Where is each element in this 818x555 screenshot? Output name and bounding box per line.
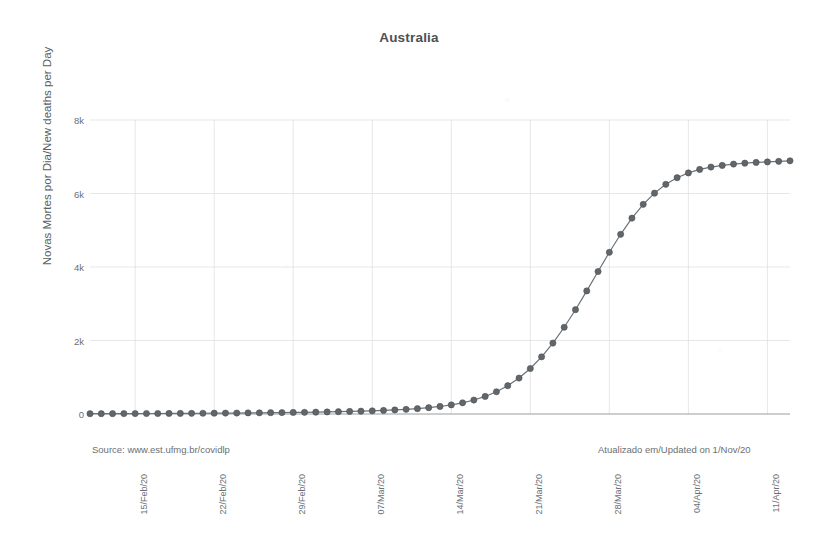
data-point-marker <box>335 409 341 415</box>
data-point-marker <box>719 162 725 168</box>
data-point-marker <box>787 158 793 164</box>
data-point-marker <box>482 393 488 399</box>
data-point-marker <box>685 170 691 176</box>
data-point-marker <box>166 410 172 416</box>
data-point-marker <box>87 411 93 417</box>
data-line-series <box>90 161 790 414</box>
chart-canvas <box>90 120 790 414</box>
data-point-marker <box>674 175 680 181</box>
data-point-marker <box>279 410 285 416</box>
x-axis-ticks: 15/Feb/2022/Feb/2029/Feb/2007/Mar/2014/M… <box>90 470 790 550</box>
data-point-marker <box>629 215 635 221</box>
data-point-marker <box>697 166 703 172</box>
data-point-marker <box>618 231 624 237</box>
x-tick-label: 29/Feb/20 <box>297 474 307 515</box>
y-tick-label: 6k <box>74 188 84 199</box>
data-point-marker <box>493 389 499 395</box>
y-tick-label: 2k <box>74 335 84 346</box>
y-tick-label: 8k <box>74 115 84 126</box>
data-point-marker <box>403 406 409 412</box>
data-point-marker <box>347 408 353 414</box>
x-tick-label: 11/Apr/20 <box>771 474 781 512</box>
data-point-marker <box>753 159 759 165</box>
data-point-marker <box>189 410 195 416</box>
data-point-marker <box>561 324 567 330</box>
data-point-marker <box>392 407 398 413</box>
x-tick-label: 07/Mar/20 <box>376 474 386 515</box>
data-point-marker <box>516 375 522 381</box>
data-point-marker <box>155 410 161 416</box>
data-point-marker <box>222 410 228 416</box>
data-point-marker <box>143 410 149 416</box>
x-tick-label: 22/Feb/20 <box>218 474 228 515</box>
data-point-marker <box>730 161 736 167</box>
chart-title: Australia <box>0 30 818 45</box>
data-point-marker <box>663 181 669 187</box>
data-point-marker <box>550 340 556 346</box>
data-point-marker <box>505 383 511 389</box>
data-point-marker <box>572 307 578 313</box>
data-point-marker <box>245 410 251 416</box>
data-point-marker <box>651 190 657 196</box>
x-tick-label: 21/Mar/20 <box>534 474 544 515</box>
data-point-marker <box>358 408 364 414</box>
data-point-marker <box>437 403 443 409</box>
y-tick-label: 4k <box>74 262 84 273</box>
data-point-marker <box>742 160 748 166</box>
data-point-marker <box>211 410 217 416</box>
updated-annotation: Atualizado em/Updated on 1/Nov/20 <box>598 444 751 455</box>
data-point-marker <box>98 411 104 417</box>
data-point-marker <box>584 288 590 294</box>
source-annotation: Source: www.est.ufmg.br/covidlp <box>92 444 230 455</box>
x-tick-label: 14/Mar/20 <box>455 474 465 515</box>
data-point-marker <box>640 201 646 207</box>
data-point-marker <box>109 411 115 417</box>
data-point-marker <box>132 410 138 416</box>
data-point-marker <box>324 409 330 415</box>
data-point-marker <box>426 405 432 411</box>
data-point-marker <box>301 409 307 415</box>
plot-area: 8k6k4k2k0 <box>90 120 790 414</box>
data-point-marker <box>234 410 240 416</box>
y-tick-label: 0 <box>79 409 84 420</box>
gridlines <box>90 120 790 414</box>
data-point-marker <box>313 409 319 415</box>
x-tick-label: 15/Feb/20 <box>139 474 149 515</box>
data-point-marker <box>256 410 262 416</box>
data-point-marker <box>606 249 612 255</box>
y-axis-title: Novas Mortes por Dia/New deaths per Day <box>41 16 53 296</box>
data-point-marker <box>471 397 477 403</box>
data-point-marker <box>177 410 183 416</box>
data-point-marker <box>369 408 375 414</box>
data-point-marker <box>268 410 274 416</box>
data-point-marker <box>776 158 782 164</box>
data-point-marker <box>290 409 296 415</box>
data-point-marker <box>539 354 545 360</box>
data-point-markers <box>87 158 793 417</box>
data-point-marker <box>121 411 127 417</box>
data-point-marker <box>764 159 770 165</box>
data-point-marker <box>595 268 601 274</box>
data-point-marker <box>527 365 533 371</box>
x-tick-label: 04/Apr/20 <box>692 474 702 513</box>
data-point-marker <box>380 407 386 413</box>
data-point-marker <box>414 406 420 412</box>
data-point-marker <box>708 164 714 170</box>
data-point-marker <box>200 410 206 416</box>
data-point-marker <box>459 400 465 406</box>
x-tick-label: 28/Mar/20 <box>613 474 623 515</box>
data-point-marker <box>448 402 454 408</box>
